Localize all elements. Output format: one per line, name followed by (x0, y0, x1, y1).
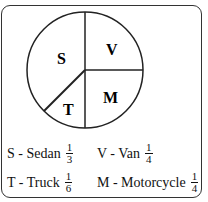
legend-fraction: 13 (66, 142, 74, 165)
legend-item-motorcycle: M - Motorcycle 14 (97, 171, 198, 194)
legend-label: S - Sedan (7, 146, 61, 162)
legend-item-sedan: S - Sedan 13 (7, 142, 73, 165)
legend-fraction: 14 (191, 171, 199, 194)
legend-fraction: 14 (145, 142, 153, 165)
legend-label: V - Van (97, 146, 140, 162)
legend-item-truck: T - Truck 16 (7, 171, 72, 194)
pie-chart: S V M T (0, 0, 208, 140)
legend-fraction: 16 (65, 171, 73, 194)
legend-label: M - Motorcycle (97, 175, 186, 191)
slice-label-v: V (106, 41, 118, 58)
slice-label-t: T (63, 101, 74, 118)
legend-item-van: V - Van 14 (97, 142, 153, 165)
slice-label-s: S (57, 50, 66, 67)
legend-label: T - Truck (7, 175, 60, 191)
slice-label-m: M (103, 89, 118, 106)
